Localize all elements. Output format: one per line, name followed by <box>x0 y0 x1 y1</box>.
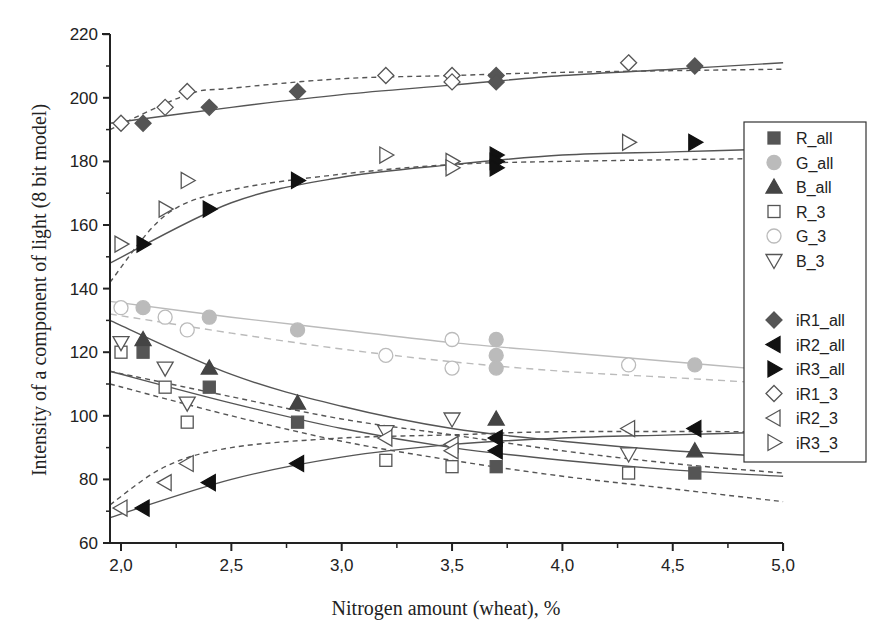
legend-marker-R_3 <box>768 206 780 218</box>
x-tick-label: 2,0 <box>109 556 133 575</box>
x-tick-label: 4,0 <box>551 556 575 575</box>
y-tick-label: 140 <box>70 280 98 299</box>
y-axis-title: Intensity of a component of light (8 bit… <box>28 104 51 476</box>
marker-R_3 <box>380 454 392 466</box>
legend-label: iR1_3 <box>796 386 838 404</box>
marker-iR1_all <box>290 83 306 99</box>
legend-label: iR1_all <box>796 312 845 330</box>
x-tick-label: 4,5 <box>661 556 685 575</box>
marker-iR1_3 <box>179 83 195 99</box>
x-axis-title: Nitrogen amount (wheat), % <box>332 597 561 620</box>
marker-R_all <box>137 346 149 358</box>
legend-label: iR3_all <box>796 361 845 379</box>
y-tick-label: 100 <box>70 407 98 426</box>
x-tick-label: 3,0 <box>330 556 354 575</box>
legend-label: R_all <box>796 130 832 148</box>
marker-G_all <box>688 358 702 372</box>
marker-G_3 <box>114 301 128 315</box>
marker-iR2_all <box>290 456 304 472</box>
marker-G_all <box>291 323 305 337</box>
marker-R_3 <box>159 381 171 393</box>
marker-G_all <box>136 301 150 315</box>
legend-label: B_all <box>796 179 832 197</box>
legend-marker-R_all <box>768 132 780 144</box>
legend-label: iR2_all <box>796 337 845 355</box>
marker-G_all <box>489 361 503 375</box>
legend-label: iR3_3 <box>796 435 838 453</box>
marker-B_3 <box>179 397 195 411</box>
marker-iR3_3 <box>623 134 637 150</box>
marker-iR3_3 <box>115 236 129 252</box>
marker-B_3 <box>157 362 173 376</box>
marker-B_all <box>488 411 504 425</box>
marker-R_3 <box>446 461 458 473</box>
y-tick-label: 200 <box>70 89 98 108</box>
fit-curve-iR3_3 <box>110 158 783 282</box>
y-tick-label: 60 <box>79 534 98 553</box>
marker-G_3 <box>622 358 636 372</box>
marker-G_3 <box>379 348 393 362</box>
legend-label: B_3 <box>796 253 825 271</box>
marker-iR2_3 <box>157 475 171 491</box>
data-points <box>113 55 703 516</box>
legend-marker-G_all <box>767 156 781 170</box>
marker-iR3_3 <box>159 201 173 217</box>
y-tick-label: 160 <box>70 216 98 235</box>
marker-B_3 <box>444 413 460 427</box>
marker-iR1_all <box>201 99 217 115</box>
marker-G_3 <box>180 323 194 337</box>
x-tick-label: 5,0 <box>771 556 795 575</box>
marker-iR1_3 <box>621 55 637 71</box>
marker-R_3 <box>623 467 635 479</box>
marker-R_all <box>490 461 502 473</box>
marker-G_3 <box>445 332 459 346</box>
legend: R_allG_allB_allR_3G_3B_3iR1_alliR2_alliR… <box>744 122 866 462</box>
marker-iR1_3 <box>378 68 394 84</box>
y-tick-label: 120 <box>70 343 98 362</box>
marker-iR3_all <box>292 172 306 188</box>
marker-R_3 <box>181 416 193 428</box>
axes: 60801001201401601802002202,02,53,03,54,0… <box>70 25 795 575</box>
marker-iR1_all <box>687 58 703 74</box>
legend-item-iR2_all: iR2_all <box>766 337 845 355</box>
y-tick-label: 80 <box>79 470 98 489</box>
legend-label: G_3 <box>796 228 826 246</box>
marker-iR2_all <box>201 475 215 491</box>
legend-label: iR2_3 <box>796 410 838 428</box>
marker-iR3_all <box>689 134 703 150</box>
y-tick-label: 180 <box>70 152 98 171</box>
legend-marker-G_3 <box>767 229 781 243</box>
y-tick-label: 220 <box>70 25 98 44</box>
x-tick-label: 3,5 <box>440 556 464 575</box>
marker-iR3_all <box>203 201 217 217</box>
marker-iR3_all <box>137 236 151 252</box>
chart: 60801001201401601802002202,02,53,03,54,0… <box>0 0 885 637</box>
marker-iR3_3 <box>380 147 394 163</box>
marker-iR1_3 <box>113 115 129 131</box>
marker-iR2_all <box>488 430 502 446</box>
legend-item-B_3: B_3 <box>766 253 825 271</box>
marker-G_3 <box>158 310 172 324</box>
marker-B_all <box>201 360 217 374</box>
legend-item-G_3: G_3 <box>767 228 826 246</box>
marker-G_all <box>489 332 503 346</box>
marker-G_all <box>489 348 503 362</box>
legend-label: R_3 <box>796 204 825 222</box>
marker-R_all <box>689 467 701 479</box>
marker-R_all <box>203 381 215 393</box>
marker-iR2_3 <box>621 421 635 437</box>
marker-R_all <box>292 416 304 428</box>
x-tick-label: 2,5 <box>220 556 244 575</box>
marker-G_all <box>202 310 216 324</box>
marker-B_all <box>687 443 703 457</box>
marker-iR2_all <box>135 500 149 516</box>
marker-G_3 <box>445 361 459 375</box>
marker-iR3_3 <box>181 172 195 188</box>
legend-label: G_all <box>796 155 833 173</box>
